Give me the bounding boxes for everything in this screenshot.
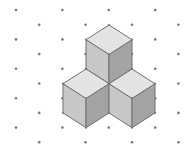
grid-dot <box>38 53 41 56</box>
cube-vertex-dot <box>62 83 64 85</box>
grid-dot <box>154 68 157 71</box>
grid-dot <box>154 9 157 12</box>
grid-dot <box>84 23 87 26</box>
cube-vertex-dot <box>108 24 110 26</box>
cube-vertex-dot <box>131 39 133 41</box>
grid-dot <box>177 112 180 115</box>
cube-vertex-dot <box>108 83 110 85</box>
grid-dot <box>61 38 64 41</box>
cube-vertex-dot <box>85 39 87 41</box>
isometric-cube-figure <box>0 0 186 150</box>
cube-vertex-dot <box>154 83 156 85</box>
grid-dot <box>131 141 134 144</box>
grid-dot <box>84 141 87 144</box>
grid-dot <box>38 23 41 26</box>
grid-dot <box>15 38 18 41</box>
grid-dot <box>154 38 157 41</box>
grid-dot <box>177 53 180 56</box>
grid-dot <box>38 112 41 115</box>
grid-dot <box>61 126 64 129</box>
cube-vertex-dot <box>108 112 110 114</box>
grid-dot <box>177 82 180 85</box>
cube-vertex-dot <box>85 68 87 70</box>
cube-vertex-dot <box>154 112 156 114</box>
grid-dot <box>15 97 18 100</box>
grid-dot <box>108 126 111 129</box>
grid-dot <box>61 68 64 71</box>
grid-dot <box>61 9 64 12</box>
cube-vertex-dot <box>131 127 133 129</box>
cube-vertex-dot <box>62 112 64 114</box>
grid-dot <box>131 23 134 26</box>
grid-dot <box>38 141 41 144</box>
cube-vertex-dot <box>85 127 87 129</box>
cube-vertex-dot <box>108 53 110 55</box>
grid-dot <box>154 126 157 129</box>
grid-dot <box>108 9 111 12</box>
cube-vertex-dot <box>85 97 87 99</box>
grid-dot <box>15 126 18 129</box>
grid-dot <box>15 68 18 71</box>
grid-dot <box>177 23 180 26</box>
grid-dot <box>38 82 41 85</box>
cube-vertex-dot <box>131 97 133 99</box>
grid-dot <box>15 9 18 12</box>
cube-group <box>62 24 156 129</box>
grid-dot <box>177 141 180 144</box>
cube-vertex-dot <box>131 68 133 70</box>
